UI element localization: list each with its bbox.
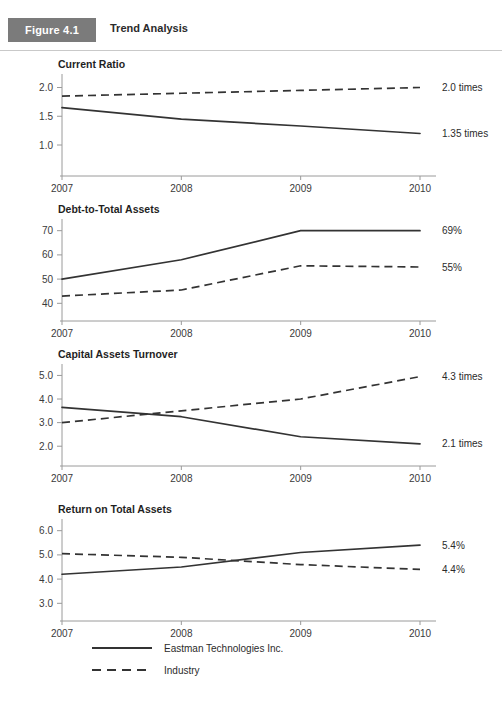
series-end-label: 2.0 times — [442, 82, 483, 93]
y-tick-label: 1.5 — [39, 111, 53, 122]
figure-number-label: Figure 4.1 — [25, 24, 79, 36]
y-tick-label: 5.0 — [39, 370, 53, 381]
x-tick-label: 2010 — [409, 328, 432, 339]
series-end-label: 4.3 times — [442, 371, 483, 382]
y-tick-label: 5.0 — [39, 549, 53, 560]
series-line-industry — [62, 377, 420, 423]
chart-plot: 3.04.05.06.020072008200920105.4%4.4% — [0, 517, 502, 643]
figure-title: Trend Analysis — [110, 22, 188, 34]
y-tick-label: 2.0 — [39, 441, 53, 452]
x-tick-label: 2008 — [170, 328, 193, 339]
y-tick-label: 1.0 — [39, 140, 53, 151]
x-tick-label: 2007 — [51, 183, 74, 194]
legend-label-company: Eastman Technologies Inc. — [164, 643, 283, 654]
y-tick-label: 4.0 — [39, 394, 53, 405]
chart-plot: 2.03.04.05.020072008200920102.1 times4.3… — [0, 362, 502, 488]
x-tick-label: 2008 — [170, 183, 193, 194]
legend-solid-line-icon — [92, 642, 152, 654]
series-line-industry — [62, 554, 420, 570]
y-tick-label: 3.0 — [39, 417, 53, 428]
chart-title: Capital Assets Turnover — [58, 348, 178, 360]
chart-plot: 1.01.52.020072008200920101.35 times2.0 t… — [0, 72, 502, 198]
y-tick-label: 60 — [42, 249, 54, 260]
x-tick-label: 2010 — [409, 473, 432, 484]
series-end-label: 4.4% — [442, 564, 465, 575]
x-tick-label: 2009 — [290, 473, 313, 484]
x-tick-label: 2009 — [290, 328, 313, 339]
chart-title: Debt-to-Total Assets — [58, 203, 160, 215]
x-tick-label: 2008 — [170, 473, 193, 484]
figure-page: Figure 4.1 Trend Analysis Current Ratio1… — [0, 0, 502, 702]
series-end-label: 55% — [442, 262, 462, 273]
series-line-company — [62, 108, 420, 134]
series-line-company — [62, 545, 420, 574]
y-tick-label: 70 — [42, 225, 54, 236]
series-line-company — [62, 231, 420, 279]
series-end-label: 5.4% — [442, 540, 465, 551]
legend-item-industry: Industry — [92, 660, 200, 680]
figure-number-badge: Figure 4.1 — [8, 18, 96, 42]
series-line-company — [62, 407, 420, 444]
series-end-label: 69% — [442, 225, 462, 236]
legend-label-industry: Industry — [164, 665, 200, 676]
figure-header: Figure 4.1 Trend Analysis — [0, 18, 502, 44]
y-tick-label: 3.0 — [39, 598, 53, 609]
y-tick-label: 4.0 — [39, 574, 53, 585]
legend-item-company: Eastman Technologies Inc. — [92, 638, 283, 658]
y-tick-label: 6.0 — [39, 525, 53, 536]
chart-title: Current Ratio — [58, 58, 125, 70]
x-tick-label: 2007 — [51, 473, 74, 484]
chart-title: Return on Total Assets — [58, 503, 172, 515]
chart-legend: Eastman Technologies Inc. Industry — [0, 638, 502, 684]
legend-dashed-line-icon — [92, 664, 152, 676]
series-line-industry — [62, 88, 420, 97]
y-tick-label: 40 — [42, 298, 54, 309]
y-tick-label: 2.0 — [39, 82, 53, 93]
series-end-label: 2.1 times — [442, 438, 483, 449]
x-tick-label: 2009 — [290, 183, 313, 194]
header-divider — [0, 50, 502, 51]
x-tick-label: 2007 — [51, 328, 74, 339]
x-tick-label: 2010 — [409, 183, 432, 194]
chart-plot: 40506070200720082009201069%55% — [0, 217, 502, 343]
y-tick-label: 50 — [42, 274, 54, 285]
series-end-label: 1.35 times — [442, 128, 488, 139]
